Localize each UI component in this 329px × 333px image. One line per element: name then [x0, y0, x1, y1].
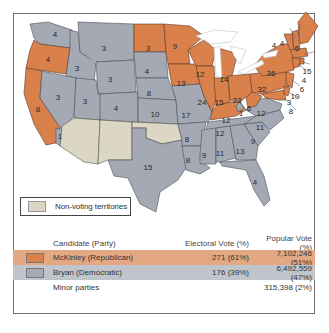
ev-label-il: 24 [198, 98, 207, 107]
ev-label-oh: 23 [233, 96, 242, 105]
ev-label-mt: 3 [102, 44, 107, 53]
state-wy [96, 60, 136, 94]
candidate-name: Bryan (Democratic) [53, 268, 122, 277]
ev-label-mn: 9 [173, 42, 178, 51]
ev-label-sc: 9 [251, 137, 256, 146]
ev-label-nh: 4 [280, 39, 285, 48]
popular-vote: 6,492,559 (47%) [253, 264, 312, 282]
ev-label-ma: 15 [303, 67, 312, 76]
results-row-minor: Minor parties 315,398 (2%) [13, 280, 315, 295]
state-mt [78, 22, 134, 62]
state-me [298, 12, 318, 44]
ev-label-al: 11 [216, 149, 225, 158]
territory-swatch [28, 201, 46, 212]
ev-label-md: 8 [289, 107, 294, 116]
territories-legend-label: Non-voting territories [55, 202, 127, 211]
ev-label-sd: 4 [145, 67, 150, 76]
ev-label-ca: 8 [36, 105, 41, 114]
ev-label-mo: 17 [182, 111, 191, 120]
candidate-name: McKinley (Republican) [53, 253, 133, 262]
state-ne [136, 78, 176, 100]
ev-label-or: 4 [46, 55, 51, 64]
ev-label-wa: 4 [53, 30, 58, 39]
electoral-vote: 176 (39%) [171, 268, 249, 277]
ev-label-tn: 12 [216, 129, 225, 138]
ev-label-la: 8 [186, 156, 191, 165]
ev-label-pa: 32 [258, 85, 267, 94]
territories-legend: Non-voting territories [20, 197, 131, 216]
ev-label-nc: 11 [256, 123, 265, 132]
state-sd [134, 52, 168, 78]
territory-az [60, 118, 100, 164]
ev-label-me: 6 [295, 44, 300, 53]
ev-label-mi: 14 [220, 75, 229, 84]
state-ri [300, 58, 304, 64]
ev-label-nv: 3 [56, 93, 61, 102]
ev-label-tx: 15 [144, 163, 153, 172]
ev-label-ar: 8 [185, 135, 190, 144]
ev-label-ky-split: 1 [239, 109, 244, 118]
ev-label-wv: 6 [247, 104, 252, 113]
ev-label-id: 3 [75, 64, 80, 73]
territory-nm [98, 120, 132, 164]
ev-label-nj: 10 [291, 92, 300, 101]
candidate-name: Minor parties [53, 283, 99, 292]
ev-label-ny: 36 [267, 69, 276, 78]
ev-label-ga: 13 [236, 147, 245, 156]
header-electoral: Electoral Vote (%) [171, 239, 249, 248]
ev-label-ca-split: 1 [58, 132, 63, 141]
ev-label-fl: 4 [253, 178, 258, 187]
state-fl [220, 160, 270, 206]
ev-label-ia: 13 [177, 79, 186, 88]
ev-label-va: 12 [257, 109, 266, 118]
ev-label-vt: 4 [272, 41, 277, 50]
ev-label-wi: 12 [196, 70, 205, 79]
ev-label-ri: 4 [302, 76, 307, 85]
header-candidate: Candidate (Party) [53, 239, 116, 248]
us-electoral-map: 4 4 8 1 3 3 3 3 3 4 3 4 8 10 15 9 13 17 … [0, 0, 329, 230]
republican-swatch [26, 253, 44, 263]
ev-label-ks: 10 [151, 110, 160, 119]
results-table: Candidate (Party) Electoral Vote (%) Pop… [13, 236, 315, 295]
ev-label-ct: 6 [300, 85, 305, 94]
ev-label-ky: 12 [222, 116, 231, 125]
electoral-vote: 271 (61%) [171, 253, 249, 262]
ev-label-co: 4 [114, 104, 119, 113]
ev-label-ms: 9 [202, 151, 207, 160]
ev-label-ne: 8 [147, 89, 152, 98]
ev-label-nd: 3 [146, 44, 151, 53]
state-de [284, 86, 290, 96]
popular-vote: 315,398 (2%) [253, 283, 312, 292]
democratic-swatch [26, 268, 44, 278]
ev-label-wy: 3 [108, 75, 113, 84]
ev-label-de: 3 [287, 98, 292, 107]
results-row-bryan: Bryan (Democratic) 176 (39%) 6,492,559 (… [13, 265, 315, 280]
ev-label-in: 15 [215, 98, 224, 107]
ev-label-ut: 3 [83, 97, 88, 106]
state-co [100, 92, 138, 122]
